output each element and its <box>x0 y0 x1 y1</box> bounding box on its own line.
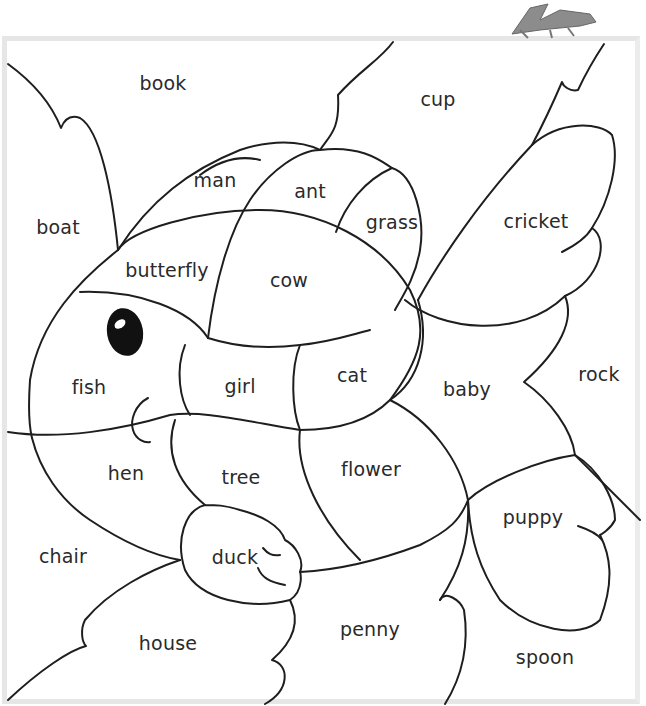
region-puppy[interactable]: puppy <box>503 506 563 528</box>
fish-line-art <box>0 0 646 706</box>
region-flower[interactable]: flower <box>341 458 401 480</box>
region-girl[interactable]: girl <box>224 375 255 397</box>
region-chair[interactable]: chair <box>39 545 87 567</box>
region-butterfly[interactable]: butterfly <box>125 259 209 281</box>
region-cricket[interactable]: cricket <box>504 210 569 232</box>
region-man[interactable]: man <box>194 169 237 191</box>
region-cow[interactable]: cow <box>270 269 308 291</box>
fish-eye-icon <box>103 305 147 359</box>
region-house[interactable]: house <box>139 632 197 654</box>
region-rock[interactable]: rock <box>578 363 619 385</box>
region-duck[interactable]: duck <box>212 546 258 568</box>
region-grass[interactable]: grass <box>366 211 418 233</box>
region-boat[interactable]: boat <box>36 216 80 238</box>
region-cat[interactable]: cat <box>337 364 367 386</box>
region-fish[interactable]: fish <box>72 376 107 398</box>
region-spoon[interactable]: spoon <box>516 646 574 668</box>
region-book[interactable]: book <box>139 72 186 94</box>
region-hen[interactable]: hen <box>108 462 144 484</box>
grasshopper-icon <box>512 4 596 38</box>
region-tree[interactable]: tree <box>221 466 260 488</box>
region-baby[interactable]: baby <box>443 378 491 400</box>
coloring-worksheet: book cup boat man ant grass cricket butt… <box>0 0 646 706</box>
region-ant[interactable]: ant <box>294 180 326 202</box>
region-penny[interactable]: penny <box>340 618 400 640</box>
region-cup[interactable]: cup <box>420 88 455 110</box>
